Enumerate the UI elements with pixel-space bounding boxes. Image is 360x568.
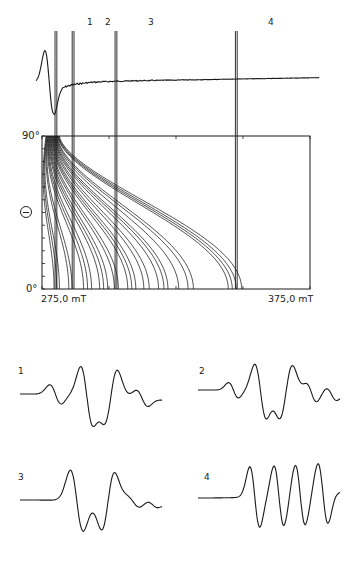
- marker-label-4: 4: [268, 18, 274, 27]
- resonance-curve: [59, 136, 236, 289]
- y-tick-90: 90°: [22, 131, 40, 141]
- marker-label-3: 3: [148, 18, 154, 27]
- marker-label-2: 2: [105, 18, 111, 27]
- axis-ticks: [42, 136, 310, 289]
- marker-label-1: 1: [87, 18, 93, 27]
- resonance-curve: [55, 136, 159, 289]
- panel-spectrum-1: [20, 367, 162, 427]
- resonance-curve: [58, 136, 232, 289]
- powder-spectrum-path: [36, 51, 319, 115]
- field-marker-lines: [55, 31, 237, 289]
- powder-spectrum-trace: [36, 51, 319, 115]
- resonance-field-curves: [43, 136, 242, 289]
- panel-label-3: 3: [18, 473, 24, 482]
- panel-label-2: 2: [199, 367, 205, 376]
- single-crystal-spectra: [20, 364, 340, 531]
- resonance-curve: [51, 136, 114, 289]
- panel-spectrum-2: [198, 364, 340, 419]
- panel-label-4: 4: [204, 473, 210, 482]
- epr-figure: [0, 0, 360, 568]
- angular-plot-frame: [42, 136, 310, 289]
- y-tick-0: 0°: [26, 284, 37, 294]
- panel-spectrum-3: [20, 470, 162, 531]
- panel-label-1: 1: [18, 367, 24, 376]
- theta-axis-symbol: [20, 206, 32, 218]
- panel-spectrum-4: [198, 464, 340, 528]
- resonance-curve: [59, 136, 241, 289]
- x-tick-275: 275,0 mT: [41, 294, 86, 304]
- x-tick-375: 375,0 mT: [268, 294, 313, 304]
- plot-frame: [42, 136, 310, 289]
